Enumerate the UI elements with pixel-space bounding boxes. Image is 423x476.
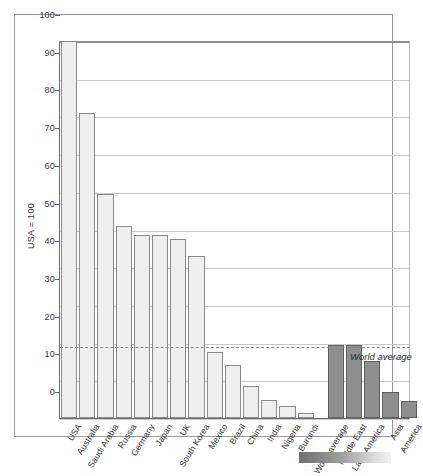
bar <box>97 194 113 418</box>
y-axis-tick-label: 10 <box>45 349 55 359</box>
y-axis-tick-label: 80 <box>45 85 55 95</box>
bar <box>401 401 417 418</box>
bar <box>61 41 77 418</box>
y-axis-tick-label: 50 <box>45 199 55 209</box>
bar <box>279 406 295 418</box>
y-axis-tick-label: 100 <box>39 10 55 20</box>
bar <box>328 345 344 418</box>
bar <box>152 235 168 418</box>
bar <box>225 365 241 418</box>
bar <box>298 413 314 418</box>
bar <box>170 239 186 418</box>
x-axis-tick-label: Brazil <box>227 422 247 446</box>
y-axis-tick-label: 30 <box>45 274 55 284</box>
bar <box>382 392 398 418</box>
gridline <box>60 80 410 81</box>
x-axis-tick-label: Japan <box>153 422 174 448</box>
bar <box>243 386 259 418</box>
bar <box>261 400 277 418</box>
bar <box>207 352 223 418</box>
figure-frame: USA = 100 0102030405060708090100 World a… <box>14 14 393 437</box>
y-axis-tick-label: 90 <box>45 48 55 58</box>
bar <box>134 235 150 418</box>
gridline <box>60 155 410 156</box>
bar <box>364 361 380 418</box>
y-axis-tick-label: 40 <box>45 236 55 246</box>
gradient-swatch <box>299 452 391 463</box>
y-axis-tick-label: 20 <box>45 312 55 322</box>
bar <box>79 113 95 418</box>
y-axis-tick-mark <box>55 15 60 16</box>
x-axis-tick-label: China <box>245 422 266 447</box>
y-axis-tick-label: 60 <box>45 161 55 171</box>
bar <box>188 256 204 418</box>
gridline <box>60 117 410 118</box>
y-axis-tick-group: 0102030405060708090100 <box>15 15 55 392</box>
x-axis-tick-label: Asia <box>387 422 405 442</box>
plot-area: World average <box>59 42 409 419</box>
gridline <box>60 419 410 420</box>
x-axis-tick-label: UK <box>178 422 193 438</box>
world-average-reference-line <box>60 347 410 348</box>
y-axis-tick-label: 70 <box>45 123 55 133</box>
world-average-annotation-label: World average <box>350 351 412 362</box>
bar <box>116 226 132 418</box>
